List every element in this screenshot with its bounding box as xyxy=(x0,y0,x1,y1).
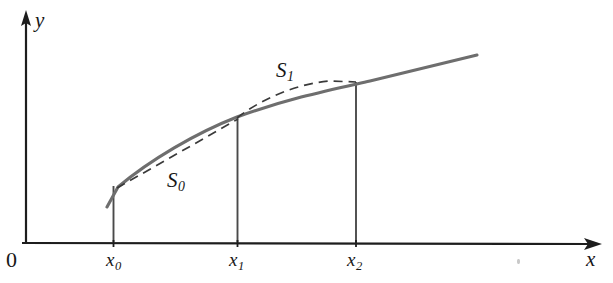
diagram-canvas: y x 0 x0 x1 x2 S0 S1 xyxy=(0,0,613,283)
tick-label-x1: x1 xyxy=(229,250,244,272)
region-label-s0-sub: 0 xyxy=(178,179,185,194)
x-axis-line xyxy=(22,243,590,244)
tick-label-x0: x0 xyxy=(106,250,121,272)
y-axis-label: y xyxy=(35,10,44,31)
region-label-s1: S1 xyxy=(276,60,294,84)
tick-label-x1-sub: 1 xyxy=(238,259,244,273)
region-label-s1-base: S xyxy=(276,58,287,82)
tick-label-x1-base: x xyxy=(229,249,237,270)
region-label-s1-sub: 1 xyxy=(287,69,294,84)
region-label-s0-base: S xyxy=(167,168,178,192)
origin-label: 0 xyxy=(6,249,17,271)
scan-speck xyxy=(517,259,520,264)
x-axis-label: x xyxy=(586,249,595,270)
y-axis xyxy=(21,10,31,243)
region-label-s0: S0 xyxy=(167,170,185,194)
tick-label-x0-sub: 0 xyxy=(115,259,121,273)
tick-label-x2: x2 xyxy=(347,250,362,272)
tick-label-x2-sub: 2 xyxy=(356,259,362,273)
tick-label-x2-base: x xyxy=(347,249,355,270)
diagram-svg xyxy=(0,0,613,283)
tick-label-x0-base: x xyxy=(106,249,114,270)
